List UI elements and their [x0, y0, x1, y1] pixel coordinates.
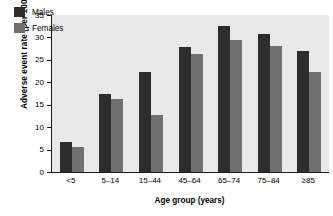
x-axis-title: Age group (years) — [51, 196, 328, 205]
bar-females — [309, 72, 321, 172]
bar-females — [72, 147, 84, 172]
x-axis-tick-label: 45–64 — [170, 176, 210, 185]
legend-item-males: Males — [14, 7, 63, 17]
x-axis-tick-label: 75–84 — [249, 176, 289, 185]
bar-group — [171, 15, 211, 172]
y-axis-tick-label: 15 — [35, 100, 44, 109]
bar-males — [179, 47, 191, 172]
legend-item-females: Females — [14, 23, 63, 33]
y-axis-tick-label: 10 — [35, 123, 44, 132]
x-axis-tick-label: ≥85 — [288, 176, 328, 185]
y-axis-tick-label: 5 — [40, 145, 44, 154]
bar-males — [258, 34, 270, 172]
y-axis-tick: 0 — [47, 172, 52, 173]
legend: Males Females — [14, 7, 63, 39]
x-axis-tick-label: 5–14 — [91, 176, 131, 185]
bar-groups — [52, 15, 329, 172]
legend-swatch-males-icon — [14, 7, 25, 17]
x-axis-tick-label: 15–44 — [130, 176, 170, 185]
plot-area: 05101520253035 — [51, 15, 329, 173]
bar-females — [111, 99, 123, 172]
bar-group — [92, 15, 132, 172]
bar-males — [60, 142, 72, 172]
legend-label-males: Males — [32, 8, 54, 17]
bar-females — [230, 40, 242, 172]
x-axis-tick-labels: <55–1415–4445–6465–7475–84≥85 — [51, 176, 328, 185]
legend-label-females: Females — [32, 24, 63, 33]
bar-group — [250, 15, 290, 172]
bar-group — [289, 15, 329, 172]
y-axis-tick-label: 0 — [40, 168, 44, 177]
bar-males — [99, 94, 111, 172]
y-axis-tick-label: 20 — [35, 78, 44, 87]
bar-females — [270, 46, 282, 172]
y-axis-tick-label: 25 — [35, 55, 44, 64]
bar-males — [218, 26, 230, 172]
bar-group — [210, 15, 250, 172]
legend-swatch-females-icon — [14, 23, 25, 33]
chart-figure: Adverse event rate (per 1000) 0510152025… — [0, 0, 333, 216]
bar-males — [139, 72, 151, 172]
x-axis-tick-label: 65–74 — [209, 176, 249, 185]
bar-males — [297, 51, 309, 172]
bar-group — [131, 15, 171, 172]
x-axis-tick-label: <5 — [51, 176, 91, 185]
bar-females — [151, 115, 163, 172]
bar-females — [191, 54, 203, 172]
